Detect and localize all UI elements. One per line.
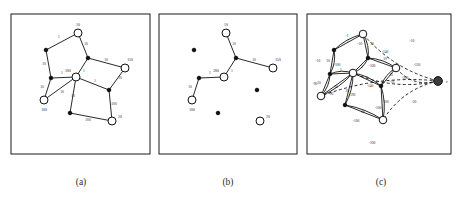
panel-b-node-b-top[interactable]	[222, 29, 230, 37]
panel-c-root-arc-label-3: -20	[412, 100, 417, 104]
panel-c-node-c-br[interactable]	[379, 116, 387, 124]
panel-a-node-a-mid[interactable]	[86, 56, 90, 60]
cap-b: (b)	[222, 177, 233, 188]
panel-a-node-label-a-right: 150	[127, 58, 133, 62]
panel-a: 1101010111010101101001001015020010020	[11, 14, 150, 154]
panel-a-edge-label-4: 1	[83, 69, 85, 73]
panel-a-edge-label-5: 1	[61, 71, 63, 75]
panel-b-node-b-right[interactable]	[269, 64, 277, 72]
panel-c-reverse-edge-label-5: -100	[334, 63, 341, 67]
panel-a-node-label-a-center: 200	[65, 69, 71, 73]
panel-a-edge-label-12: 100	[85, 118, 91, 122]
panel-a-node-a-ul[interactable]	[44, 48, 48, 52]
figure-root: 1101010111010101101001001015020010020101…	[0, 0, 461, 198]
panel-a-edge-label-6: 10	[40, 85, 44, 89]
panel-c-node-c-bc[interactable]	[343, 103, 347, 107]
panel-a-node-a-top[interactable]	[74, 29, 82, 37]
panel-c-reverse-edge-label-9: -140	[367, 84, 374, 88]
panel-c-node-c-ul[interactable]	[332, 48, 336, 52]
panel-a-node-a-right[interactable]	[121, 64, 129, 72]
panel-a-node-a-bc[interactable]	[68, 111, 72, 115]
panel-a-edge-label-0: 1	[58, 35, 60, 39]
panel-b-edge-label-4: 10	[188, 85, 192, 89]
panel-c-reverse-edge-label-8: -190	[349, 93, 356, 97]
panel-b-node-b-center[interactable]	[220, 73, 228, 81]
panel-c-edge-label-3: 10	[383, 57, 387, 61]
panel-a-node-a-center[interactable]	[72, 73, 80, 81]
panel-c-node-c-center[interactable]	[349, 69, 357, 77]
panel-a-node-label-a-bl: 100	[41, 108, 47, 112]
panel-c-node-c-mid[interactable]	[366, 56, 370, 60]
panel-a-node-a-br[interactable]	[108, 117, 116, 125]
panel-c-reverse-edge-label-1: -10	[358, 42, 363, 46]
panel-c: 11010101110101011010060-1-10-10-140-100-…	[307, 14, 451, 154]
panel-b: 101011101015020010020	[159, 14, 297, 154]
panel-c-root-node[interactable]	[434, 77, 443, 86]
panel-c-node-c-bl[interactable]	[317, 92, 325, 100]
panel-c-reverse-edge-label-4: -100	[369, 64, 376, 68]
panel-b-edge-label-1: 10	[252, 58, 256, 62]
panel-a-edge-label-1: 10	[84, 42, 88, 46]
panel-a-edge-label-2: 10	[42, 62, 46, 66]
panel-c-node-c-right[interactable]	[392, 64, 400, 72]
panel-a-node-label-a-br: 20	[118, 115, 122, 119]
panel-b-node-b-mr[interactable]	[255, 88, 259, 92]
panel-c-reverse-edge-label-0: -1	[346, 34, 349, 38]
panel-b-node-label-b-br: 20	[266, 115, 270, 119]
panel-a-edge-label-7: 10	[60, 90, 64, 94]
panel-a-node-a-left[interactable]	[49, 76, 53, 80]
panel-c-edge-label-6: 10	[317, 81, 321, 85]
panel-a-node-a-bl[interactable]	[40, 96, 48, 104]
panel-c-node-c-mr[interactable]	[379, 84, 383, 88]
panel-b-node-label-b-top: 10	[224, 23, 228, 27]
panel-c-reverse-edge-label-2: -10	[316, 59, 321, 63]
panel-b-edge-label-2: 1	[231, 69, 233, 73]
panel-b-node-label-b-right: 150	[275, 58, 281, 62]
panel-c-root-arc-label-1: -150	[414, 63, 421, 67]
panel-c-root-arc-label-4: -100	[369, 141, 376, 145]
panel-a-edge-label-8: 10	[71, 94, 75, 98]
panel-c-reverse-edge-label-11: -100	[375, 106, 382, 110]
panel-c-node-c-top[interactable]	[359, 30, 367, 38]
panel-b-edge-label-3: 1	[209, 71, 211, 75]
panel-b-edge-label-0: 10	[232, 42, 236, 46]
panel-a-node-label-a-top: 10	[76, 23, 80, 27]
panel-a-edge-label-9: 1	[94, 79, 96, 83]
panel-b-node-b-ul[interactable]	[192, 48, 196, 52]
panel-c-edge-label-10: 10	[389, 73, 393, 77]
panel-a-edge-label-10: 10	[118, 76, 122, 80]
panel-c-reverse-edge-label-12: -100	[353, 119, 360, 123]
panel-c-reverse-edge-label-6: -90	[313, 82, 318, 86]
panel-a-edge-label-3: 10	[104, 58, 108, 62]
panel-b-node-label-b-bl: 100	[189, 108, 195, 112]
panel-c-edge-label-2: 10	[326, 59, 330, 63]
panel-b-node-b-br[interactable]	[256, 117, 264, 125]
panel-b-node-b-bl[interactable]	[188, 96, 196, 104]
cap-c: (c)	[376, 177, 387, 188]
panel-a-edge-label-11: 100	[111, 102, 117, 106]
panel-a-node-a-mr[interactable]	[107, 88, 111, 92]
panel-b-node-b-left[interactable]	[197, 76, 201, 80]
panel-c-root-arc-label-0: -10	[410, 39, 415, 43]
panel-b-node-b-mid[interactable]	[234, 56, 238, 60]
panel-b-node-b-bc[interactable]	[216, 111, 220, 115]
panel-b-node-label-b-center: 200	[213, 69, 219, 73]
cap-a: (a)	[76, 177, 87, 188]
panel-c-node-c-left[interactable]	[328, 72, 332, 76]
